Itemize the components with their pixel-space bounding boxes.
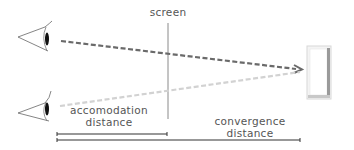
bottom-sight-line <box>60 72 300 106</box>
convergence-distance-label: convergence distance <box>205 115 295 139</box>
convergence-label-line1: convergence <box>205 115 295 127</box>
box-object-icon <box>307 46 331 99</box>
top-sight-line <box>61 41 296 69</box>
accommodation-label-line2: distance <box>63 116 155 128</box>
screen-label: screen <box>148 6 188 18</box>
top-eye-icon <box>18 21 52 51</box>
accommodation-distance-label: accomodation distance <box>63 104 155 128</box>
stereo-diagram <box>0 0 354 150</box>
bottom-eye-icon <box>18 91 51 121</box>
accommodation-distance-line <box>57 132 167 136</box>
convergence-label-line2: distance <box>205 127 295 139</box>
accommodation-label-line1: accomodation <box>63 104 155 116</box>
